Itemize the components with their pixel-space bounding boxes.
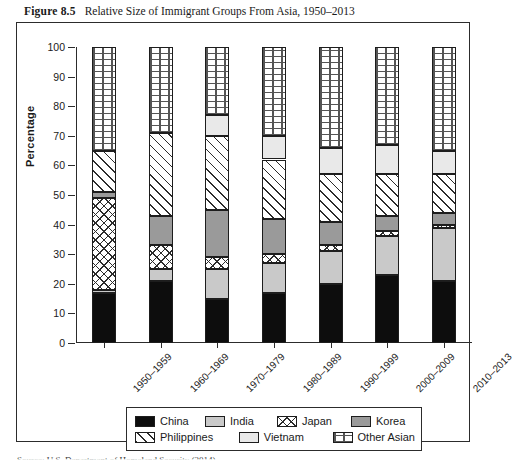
bar-segment-other-asian	[262, 47, 286, 136]
y-tick	[68, 77, 75, 78]
x-tick	[217, 343, 218, 348]
legend-swatch-other-asian	[333, 432, 353, 443]
y-tick-label: 50	[53, 189, 65, 201]
y-axis-title: Percentage	[24, 106, 36, 167]
chart-legend: ChinaIndiaJapanKorea PhilippinesVietnamO…	[126, 407, 422, 451]
y-tick-label: 30	[53, 248, 65, 260]
bar-segment-china	[375, 275, 399, 343]
legend-swatch-vietnam	[239, 432, 259, 443]
bar-segment-philippines	[92, 151, 116, 192]
y-tick-label: 20	[53, 278, 65, 290]
bar-segment-korea	[432, 213, 456, 225]
source-note: Source: U.S. Department of Homeland Secu…	[17, 455, 218, 465]
bar-segment-other-asian	[432, 47, 456, 151]
y-tick	[68, 254, 75, 255]
legend-swatch-korea	[351, 416, 371, 427]
legend-item-china: China	[135, 415, 205, 427]
bar-segment-philippines	[319, 174, 343, 221]
legend-label: Other Asian	[358, 431, 415, 443]
bar-1990–1999	[319, 47, 343, 343]
bar-segment-india	[432, 228, 456, 281]
figure-caption: Figure 8.5Relative Size of Immigrant Gro…	[24, 4, 464, 18]
x-tick	[104, 343, 105, 348]
bar-segment-japan	[205, 257, 229, 269]
x-tick	[387, 343, 388, 348]
x-tick-label: 2010–2013	[470, 351, 513, 394]
bar-1980–1989	[262, 47, 286, 343]
bar-segment-india	[205, 269, 229, 299]
y-tick-label: 60	[53, 159, 65, 171]
y-tick	[68, 284, 75, 285]
legend-item-japan: Japan	[277, 415, 351, 427]
bar-segment-philippines	[432, 174, 456, 212]
x-tick	[444, 343, 445, 348]
y-tick-label: 90	[53, 71, 65, 83]
bar-segment-korea	[375, 216, 399, 231]
figure-frame: Percentage 0102030405060708090100 1950–1…	[16, 22, 470, 442]
bar-segment-korea	[149, 216, 173, 246]
chart-plot-area: Percentage 0102030405060708090100 1950–1…	[76, 47, 472, 343]
legend-swatch-india	[205, 416, 225, 427]
y-tick-label: 0	[59, 337, 65, 349]
y-tick-label: 70	[53, 130, 65, 142]
bar-segment-korea	[205, 210, 229, 257]
bar-segment-china	[149, 281, 173, 343]
bar-1970–1979	[205, 47, 229, 343]
y-axis-line	[76, 47, 77, 343]
bar-segment-korea	[92, 192, 116, 198]
legend-label: Vietnam	[264, 431, 304, 443]
bar-segment-philippines	[375, 174, 399, 215]
x-tick-label: 2000–2009	[414, 351, 457, 394]
legend-label: Korea	[376, 415, 405, 427]
bar-segment-japan	[375, 231, 399, 237]
x-tick	[274, 343, 275, 348]
bar-segment-philippines	[205, 136, 229, 210]
bar-segment-vietnam	[432, 151, 456, 175]
y-tick	[68, 313, 75, 314]
legend-label: Japan	[302, 415, 332, 427]
bar-segment-vietnam	[319, 148, 343, 175]
bar-2000–2009	[375, 47, 399, 343]
y-tick-label: 10	[53, 307, 65, 319]
legend-swatch-japan	[277, 416, 297, 427]
legend-item-korea: Korea	[351, 415, 405, 427]
legend-item-philippines: Philippines	[135, 431, 239, 443]
bar-segment-japan	[262, 254, 286, 263]
bar-segment-vietnam	[205, 115, 229, 136]
bar-segment-korea	[262, 219, 286, 255]
bar-1950–1959	[92, 47, 116, 343]
x-tick-label: 1980–1989	[301, 351, 344, 394]
x-tick-label: 1970–1979	[244, 351, 287, 394]
bar-segment-china	[432, 281, 456, 343]
x-tick-label: 1950–1959	[131, 351, 174, 394]
y-tick-label: 40	[53, 219, 65, 231]
bar-segment-other-asian	[92, 47, 116, 151]
bar-segment-india	[92, 290, 116, 293]
legend-row-2: PhilippinesVietnamOther Asian	[135, 429, 415, 445]
legend-swatch-philippines	[135, 432, 155, 443]
legend-label: India	[230, 415, 254, 427]
bar-segment-philippines	[149, 133, 173, 216]
bar-segment-india	[262, 263, 286, 293]
legend-item-other-asian: Other Asian	[333, 431, 415, 443]
bar-segment-japan	[149, 245, 173, 269]
bar-segment-korea	[319, 222, 343, 246]
y-tick	[68, 225, 75, 226]
x-tick-label: 1990–1999	[357, 351, 400, 394]
legend-item-vietnam: Vietnam	[239, 431, 333, 443]
figure-title-text: Relative Size of Immigrant Groups From A…	[85, 5, 355, 17]
bar-segment-philippines	[262, 160, 286, 219]
y-tick	[68, 195, 75, 196]
bar-segment-other-asian	[205, 47, 229, 115]
legend-swatch-china	[135, 416, 155, 427]
bar-segment-japan	[319, 245, 343, 251]
x-tick	[331, 343, 332, 348]
legend-item-india: India	[205, 415, 277, 427]
bar-segment-other-asian	[375, 47, 399, 145]
bar-segment-other-asian	[149, 47, 173, 133]
y-tick-label: 80	[53, 100, 65, 112]
bar-segment-china	[92, 293, 116, 343]
bar-segment-japan	[92, 198, 116, 290]
y-tick	[68, 136, 75, 137]
y-tick	[68, 343, 75, 344]
